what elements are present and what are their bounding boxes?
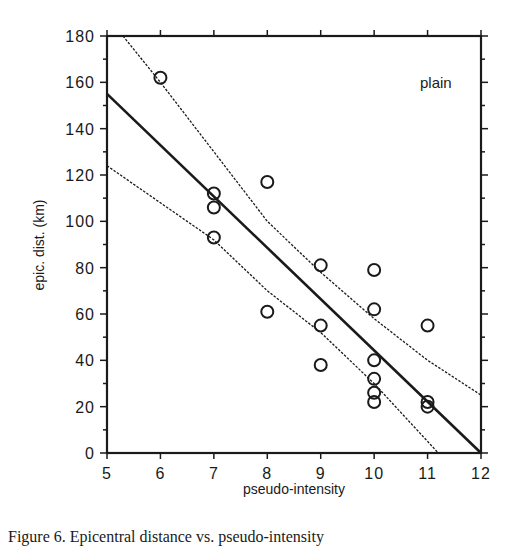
data-point-marker [315,359,327,371]
y-tick-label: 140 [65,121,95,138]
plot-frame [107,36,481,453]
x-tick-label: 5 [102,465,112,482]
y-tick-label: 120 [65,167,95,184]
x-tick-label: 8 [262,465,272,482]
x-tick-label: 6 [155,465,165,482]
plot-annotation: plain [420,74,452,91]
data-point-marker [368,303,380,315]
y-tick-label: 180 [65,28,95,45]
x-tick-label: 10 [364,465,384,482]
data-point-marker [208,201,220,213]
data-point-marker [261,176,273,188]
x-tick-label: 12 [471,465,491,482]
y-tick-label: 40 [75,352,95,369]
y-tick-label: 0 [85,445,95,462]
series-layer [107,36,481,453]
figure-caption: Figure 6. Epicentral distance vs. pseudo… [8,528,324,546]
x-axis-title: pseudo-intensity [243,481,345,497]
regression-line [107,94,481,453]
y-tick-label: 20 [75,399,95,416]
y-tick-label: 60 [75,306,95,323]
x-tick-label: 11 [418,465,437,482]
x-tick-label: 7 [209,465,219,482]
data-point-marker [315,320,327,332]
data-point-marker [368,264,380,276]
y-axis-title: epic. dist. (km) [31,199,47,290]
y-tick-label: 160 [65,74,95,91]
x-tick-label: 9 [316,465,326,482]
data-point-marker [315,259,327,271]
data-point-marker [261,306,273,318]
y-tick-label: 80 [75,260,95,277]
axes-layer: 56789101112020406080100120140160180 [65,28,491,482]
data-point-marker [422,320,434,332]
y-tick-label: 100 [65,213,95,230]
